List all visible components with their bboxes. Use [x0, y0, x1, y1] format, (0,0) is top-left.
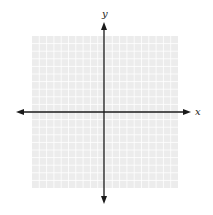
- y-axis-label: y: [101, 8, 108, 19]
- arrow-left-icon: [16, 109, 24, 115]
- arrow-right-icon: [183, 109, 191, 115]
- arrow-up-icon: [101, 22, 107, 30]
- x-axis-label: x: [195, 106, 201, 117]
- arrow-down-icon: [101, 196, 107, 204]
- coordinate-plane: y x: [0, 0, 213, 215]
